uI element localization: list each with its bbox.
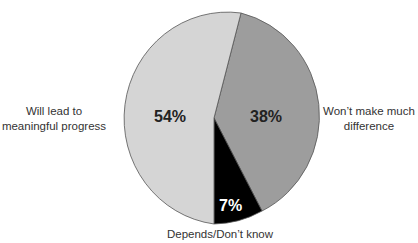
percent-depends: 7% bbox=[219, 197, 242, 215]
label-line: Won’t make much bbox=[320, 104, 418, 119]
percent-meaningful-progress: 54% bbox=[154, 108, 186, 126]
percent-wont-make-difference: 38% bbox=[250, 108, 282, 126]
label-meaningful-progress: Will lead to meaningful progress bbox=[0, 104, 108, 134]
label-wont-make-difference: Won’t make much difference bbox=[320, 104, 418, 134]
label-line: difference bbox=[320, 119, 418, 134]
label-line: meaningful progress bbox=[0, 119, 108, 134]
label-line: Will lead to bbox=[0, 104, 108, 119]
label-depends: Depends/Don’t know bbox=[150, 227, 290, 242]
